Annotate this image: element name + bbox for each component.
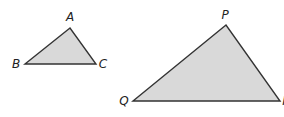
vertex-label-r-cropped: I <box>282 94 284 108</box>
vertex-label-b: B <box>12 57 20 71</box>
triangle-pqr-shape <box>133 25 280 101</box>
vertex-label-p: P <box>221 8 229 22</box>
triangle-abc-shape <box>25 28 96 64</box>
vertex-label-c: C <box>99 57 108 71</box>
vertex-label-q: Q <box>119 94 128 108</box>
vertex-label-a: A <box>65 10 74 24</box>
triangle-pqr: P Q I <box>119 8 284 108</box>
triangle-abc: A B C <box>12 10 108 71</box>
similar-triangles-diagram: A B C P Q I <box>0 0 284 117</box>
